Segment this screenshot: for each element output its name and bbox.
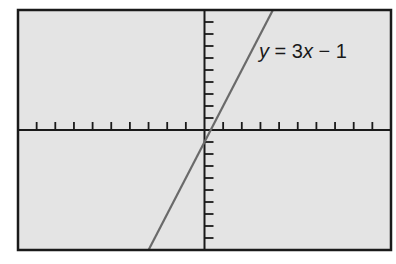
equation-rest: − 1 bbox=[313, 40, 347, 62]
equation-eq: = 3 bbox=[269, 40, 303, 62]
equation-label: y = 3x − 1 bbox=[257, 40, 347, 62]
graph: y = 3x − 1 bbox=[0, 0, 396, 264]
